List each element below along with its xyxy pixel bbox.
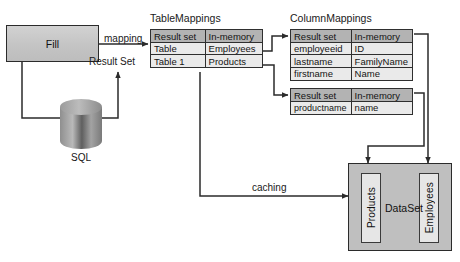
edge-employees-to-colmap1 xyxy=(262,36,288,51)
fill-label: Fill xyxy=(46,38,59,50)
colmap2-cell-0-1: name xyxy=(351,101,413,115)
table-mappings-caption: TableMappings xyxy=(150,12,221,24)
table-mappings-table: Result set In-memory Table Employees Tab… xyxy=(150,29,263,68)
colmap1-cell-2-1: Name xyxy=(351,67,413,81)
sql-label: SQL xyxy=(56,152,106,163)
sql-database-cylinder xyxy=(56,98,106,150)
dataset-box: Products Employees DataSet xyxy=(348,163,452,251)
edge-products-to-colmap2 xyxy=(262,65,288,95)
dataset-table-employees-label: Employees xyxy=(424,182,435,233)
colmap2-cell-0-0: productname xyxy=(290,101,352,115)
column-mappings-table-2: Result set In-memory productname name xyxy=(290,88,413,115)
column-mappings-caption: ColumnMappings xyxy=(290,12,372,24)
table-row: productname name xyxy=(290,102,413,115)
column-mappings-table-1: Result set In-memory employeeid ID lastn… xyxy=(290,29,413,81)
dataset-table-products-label: Products xyxy=(366,187,377,228)
edge-colmap1-to-employees xyxy=(414,34,428,163)
table-row: firstname Name xyxy=(290,68,413,81)
edge-label-result-set: Result Set xyxy=(89,56,135,67)
diagram-canvas: Fill mapping Result Set caching SQL Tabl… xyxy=(0,0,460,262)
edge-label-caching: caching xyxy=(252,182,286,193)
dataset-label: DataSet xyxy=(385,202,423,214)
table-mappings-cell-1-0: Table 1 xyxy=(150,54,206,68)
dataset-table-products: Products xyxy=(361,173,381,243)
table-row: Table 1 Products xyxy=(150,56,263,69)
table-mappings-cell-1-1: Products xyxy=(205,54,263,68)
colmap1-cell-2-0: firstname xyxy=(290,67,352,81)
edge-label-mapping: mapping xyxy=(104,33,142,44)
fill-process-box: Fill xyxy=(6,25,99,62)
